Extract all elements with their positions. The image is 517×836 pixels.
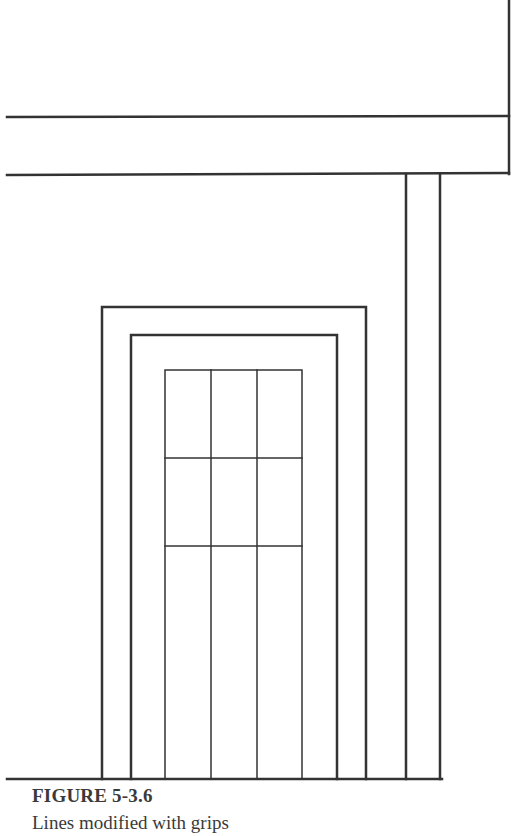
fascia-bottom-line (7, 173, 509, 175)
doorway-elevation-drawing (0, 0, 517, 836)
fascia-top-line (7, 116, 509, 117)
door-panel (165, 370, 302, 779)
figure-caption: Lines modified with grips (32, 812, 229, 834)
outer-door-frame (102, 307, 366, 779)
inner-door-frame (131, 335, 337, 779)
door-outline (165, 370, 302, 779)
figure-label: FIGURE 5-3.6 (32, 785, 153, 807)
fascia-band (7, 0, 509, 175)
posts (406, 174, 440, 779)
